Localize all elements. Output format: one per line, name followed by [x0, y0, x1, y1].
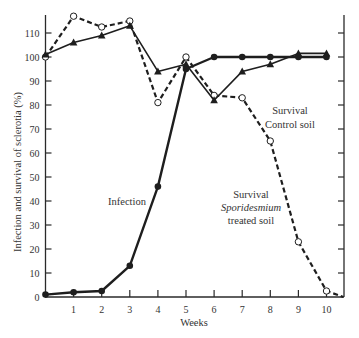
chart: 010203040506070809010011012345678910 Wee… [0, 0, 359, 338]
marker-filled-circle [323, 54, 330, 61]
marker-filled-circle [127, 263, 134, 270]
x-tick-label: 4 [155, 304, 160, 315]
marker-filled-circle [211, 54, 218, 61]
marker-filled-circle [295, 54, 302, 61]
x-tick-label: 2 [99, 304, 104, 315]
y-tick-label: 70 [30, 124, 40, 135]
marker-filled-circle [267, 54, 274, 61]
y-tick-label: 110 [25, 28, 40, 39]
marker-open-circle [70, 13, 76, 19]
treated-annotation-line3: treated soil [228, 215, 274, 226]
marker-filled-circle [239, 54, 246, 61]
x-tick-label: 6 [212, 304, 217, 315]
y-tick-label: 60 [30, 148, 40, 159]
series-infection [42, 54, 330, 298]
marker-filled-circle [155, 183, 162, 190]
treated-annotation-line2: Sporidesmium [221, 202, 282, 213]
marker-filled-circle [183, 66, 190, 73]
marker-filled-circle [98, 288, 105, 295]
y-tick-label: 50 [30, 172, 40, 183]
x-tick-label: 5 [184, 304, 189, 315]
marker-filled-circle [42, 291, 49, 298]
infection-annotation: Infection [108, 196, 147, 207]
y-tick-label: 30 [30, 220, 40, 231]
marker-open-circle [267, 138, 273, 144]
marker-open-circle [99, 24, 105, 30]
y-tick-label: 20 [30, 244, 40, 255]
control-annotation-line1: Survival [272, 105, 308, 116]
treated-annotation-line1: Survival [233, 189, 269, 200]
marker-filled-circle [70, 289, 77, 296]
marker-open-circle [155, 99, 161, 105]
marker-open-circle [295, 239, 301, 245]
y-axis-label: Infection and survival of sclerotia (%) [12, 91, 24, 252]
y-tick-label: 100 [25, 52, 40, 63]
y-tick-label: 90 [30, 76, 40, 87]
x-tick-label: 3 [127, 304, 132, 315]
series-line [46, 57, 327, 295]
series-layer [42, 13, 344, 298]
marker-open-circle [183, 54, 189, 60]
x-tick-label: 7 [240, 304, 245, 315]
y-tick-label: 40 [30, 196, 40, 207]
y-tick-label: 0 [35, 292, 40, 303]
x-axis-label: Weeks [180, 317, 208, 328]
x-tick-label: 10 [322, 304, 332, 315]
x-tick-label: 8 [268, 304, 273, 315]
marker-open-circle [323, 288, 329, 294]
control-annotation-line2: Control soil [265, 119, 315, 130]
x-tick-label: 9 [296, 304, 301, 315]
series-survival-control-soil [42, 22, 331, 103]
x-tick-label: 1 [71, 304, 76, 315]
marker-open-circle [239, 95, 245, 101]
y-tick-label: 10 [30, 268, 40, 279]
y-tick-label: 80 [30, 100, 40, 111]
